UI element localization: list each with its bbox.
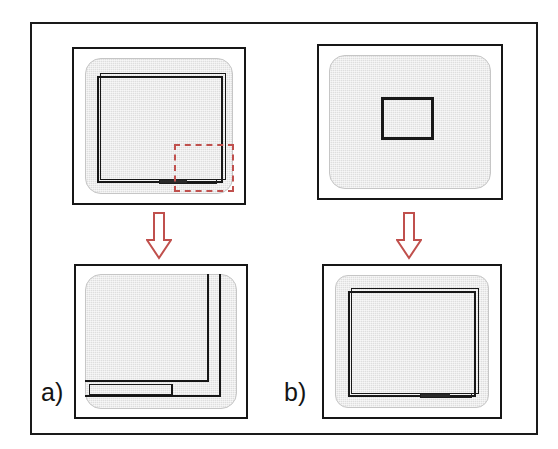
panel-b-down-arrow [396,212,422,260]
arrow-glyph [147,213,171,258]
panel-b-after-device-frame [322,264,502,419]
panel-a-before-device-frame [72,47,246,205]
panel-b-after-bottom-bar-outline [420,393,472,398]
panel-a-after-bottom-bar-divider [171,384,173,397]
panel-b-small-centered-viewport[interactable] [381,97,434,140]
panel-a-label: a) [41,380,63,405]
panel-a-after-viewport-inner-right-edge [207,274,209,382]
panel-b-after-viewport-inner [348,291,476,397]
figure-root: a) [0,0,558,449]
panel-b-before-device-frame [317,44,503,200]
arrow-glyph [397,213,421,258]
panel-a-dashed-selection-region[interactable] [174,144,234,192]
figure-outer-frame: a) [30,22,538,435]
panel-a-after-bottom-bar-outline [89,384,172,395]
panel-a-after-viewport-inner-bottom-edge [85,380,209,382]
panel-a-after-device-frame [74,264,248,419]
panel-a-after-viewport-outer-right-edge [219,274,221,397]
panel-a-down-arrow [146,212,172,260]
panel-a-after-viewport-outer-bottom-edge [85,395,221,397]
panel-b-label: b) [284,380,306,405]
